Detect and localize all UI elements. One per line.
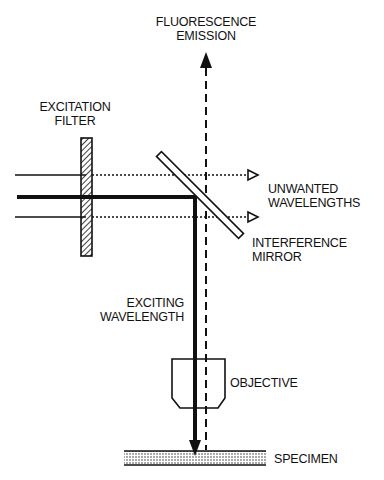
unwanted-arrow-icon: [248, 212, 258, 222]
label-objective: OBJECTIVE: [230, 376, 298, 390]
label-line: UNWANTED: [268, 182, 360, 196]
label-line: FLUORESCENCE: [150, 15, 262, 29]
exciting-beam: [17, 197, 201, 456]
label-interference-mirror: INTERFERENCE MIRROR: [252, 236, 347, 264]
label-exciting-wavelength: EXCITING WAVELENGTH: [96, 296, 184, 324]
label-line: EXCITATION: [30, 100, 120, 114]
label-line: WAVELENGTH: [96, 310, 184, 324]
label-excitation-filter: EXCITATION FILTER: [30, 100, 120, 128]
label-line: WAVELENGTHS: [268, 196, 360, 210]
label-line: EMISSION: [150, 29, 262, 43]
label-fluorescence-emission: FLUORESCENCE EMISSION: [150, 15, 262, 43]
label-specimen: SPECIMEN: [274, 452, 338, 466]
label-line: EXCITING: [96, 296, 184, 310]
label-line: INTERFERENCE: [252, 236, 347, 250]
emission-path: [200, 52, 212, 450]
objective-lens: [172, 359, 225, 408]
label-line: MIRROR: [252, 250, 347, 264]
emission-arrow-icon: [200, 52, 212, 68]
excitation-filter: [81, 138, 92, 256]
label-line: FILTER: [30, 114, 120, 128]
unwanted-arrow-icon: [248, 170, 258, 180]
label-unwanted-wavelengths: UNWANTED WAVELENGTHS: [268, 182, 360, 210]
specimen-slide: [124, 451, 266, 465]
